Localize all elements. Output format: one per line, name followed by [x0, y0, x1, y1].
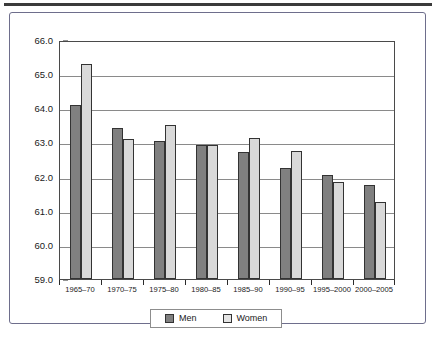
- x-axis-tick-label: 1980–85: [191, 286, 221, 294]
- figure-frame: 59.060.061.062.063.064.065.066.0 1965–70…: [9, 12, 426, 324]
- bar-women-4: [249, 138, 260, 279]
- y-axis: 59.060.061.062.063.064.065.066.0: [19, 41, 53, 280]
- bar-women-0: [81, 64, 92, 279]
- y-axis-tick-label: 65.0: [35, 70, 54, 80]
- y-axis-tick-label: 66.0: [35, 36, 54, 46]
- bar-men-0: [70, 105, 81, 279]
- x-axis-tick-label: 1985–90: [233, 286, 263, 294]
- y-axis-tick-label: 61.0: [35, 207, 54, 217]
- top-rule: [4, 3, 432, 6]
- gridline: [60, 179, 394, 180]
- x-axis-tick-mark: [59, 280, 60, 285]
- x-axis: 1965–701970–751975–801980–851985–901990–…: [59, 280, 395, 302]
- x-axis-tick-mark: [269, 280, 270, 285]
- bar-men-6: [322, 175, 333, 279]
- bar-women-2: [165, 125, 176, 279]
- gridline: [60, 76, 394, 77]
- y-axis-tick-label: 62.0: [35, 173, 54, 183]
- x-axis-tick-mark: [394, 280, 395, 285]
- chart-legend: Men Women: [150, 309, 282, 328]
- x-axis-tick-label: 1975–80: [149, 286, 179, 294]
- x-axis-tick-mark: [227, 280, 228, 285]
- bar-women-7: [375, 202, 386, 279]
- y-axis-tick-label: 63.0: [35, 139, 54, 149]
- x-axis-tick-label: 1990–95: [275, 286, 305, 294]
- bar-women-1: [123, 139, 134, 279]
- x-axis-tick-label: 1970–75: [107, 286, 137, 294]
- x-axis-tick-mark: [143, 280, 144, 285]
- bar-men-2: [154, 141, 165, 279]
- legend-swatch-men-icon: [165, 314, 174, 323]
- x-axis-tick-label: 2000–2005: [355, 286, 393, 294]
- y-axis-tick-label: 64.0: [35, 105, 54, 115]
- x-axis-tick-mark: [353, 280, 354, 285]
- bar-men-5: [280, 168, 291, 279]
- legend-swatch-women-icon: [223, 314, 232, 323]
- x-axis-tick-label: 1995–2000: [313, 286, 351, 294]
- x-axis-tick-mark: [311, 280, 312, 285]
- bar-men-4: [238, 152, 249, 279]
- y-axis-tick-label: 59.0: [35, 275, 54, 285]
- legend-label-women: Women: [237, 314, 268, 323]
- bar-men-1: [112, 128, 123, 279]
- plot-area: [59, 41, 395, 280]
- bar-men-7: [364, 185, 375, 279]
- legend-label-men: Men: [179, 314, 197, 323]
- bar-women-5: [291, 151, 302, 279]
- y-axis-tick-label: 60.0: [35, 241, 54, 251]
- legend-entry-men: Men: [165, 314, 197, 323]
- gridline: [60, 110, 394, 111]
- gridline: [60, 144, 394, 145]
- legend-entry-women: Women: [223, 314, 268, 323]
- x-axis-tick-label: 1965–70: [65, 286, 95, 294]
- bar-women-6: [333, 182, 344, 279]
- bar-women-3: [207, 145, 218, 279]
- x-axis-tick-mark: [185, 280, 186, 285]
- bar-men-3: [196, 145, 207, 279]
- x-axis-tick-mark: [101, 280, 102, 285]
